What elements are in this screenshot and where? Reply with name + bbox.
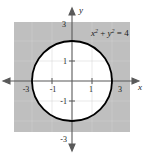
x-tick-label-neg1: -1	[50, 85, 57, 94]
x-tick-label-neg3: -3	[23, 85, 30, 94]
y-tick-label-neg3: -3	[60, 135, 67, 144]
equation-value: 4	[124, 28, 129, 38]
y-tick-label-neg1: -1	[60, 97, 67, 106]
y-tick-label-pos3: 3	[62, 20, 66, 29]
y-axis-arrow-down	[69, 144, 75, 151]
x-tick-label-pos1: 1	[89, 85, 93, 94]
y-axis-label: y	[78, 5, 83, 15]
circle-inequality-figure: -3 -1 1 3 3 1 -1 -3 x y x2 + y2 = 4	[0, 0, 145, 154]
x-axis-arrow-left	[3, 78, 10, 84]
y-axis-arrow-up	[69, 8, 75, 15]
x-tick-label-pos3: 3	[118, 85, 122, 94]
x-axis-label: x	[137, 82, 142, 92]
y-tick-label-pos1: 1	[63, 57, 67, 66]
graph-canvas: -3 -1 1 3 3 1 -1 -3 x y x2 + y2 = 4	[0, 0, 145, 154]
